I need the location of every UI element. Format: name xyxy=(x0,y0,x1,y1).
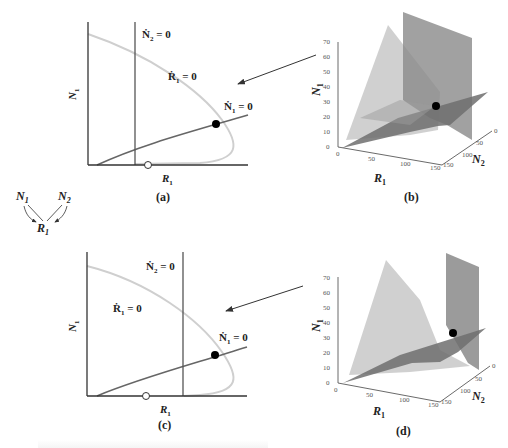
n2-ticks: 0 50 100 150 xyxy=(441,362,496,406)
svg-text:70: 70 xyxy=(323,274,331,282)
svg-text:150: 150 xyxy=(428,401,439,409)
panel-d: 0 10 20 30 40 50 60 70 0 50 100 150 0 50… xyxy=(309,253,496,438)
n1-ticks: 0 10 20 30 40 50 60 70 xyxy=(323,274,331,387)
n1-isocline-label: Ṅ1 = 0 xyxy=(219,331,248,346)
svg-text:0: 0 xyxy=(336,150,340,158)
r1-ticks: 0 50 100 150 xyxy=(334,386,439,409)
svg-text:70: 70 xyxy=(323,38,331,46)
panel-label-c: (c) xyxy=(158,418,171,432)
n1-isocline-line xyxy=(97,347,247,396)
r1-isocline-curve xyxy=(87,266,234,396)
food-web-node-r1: R1 xyxy=(36,221,49,237)
figure-canvas: Ṅ2 = 0 Ṙ1 = 0 Ṅ1 = 0 R1 N1 (a) 0 10 xyxy=(0,0,508,448)
svg-text:150: 150 xyxy=(430,164,441,172)
r1-axis-label: R1 xyxy=(372,404,385,420)
panel-a: Ṅ2 = 0 Ṙ1 = 0 Ṅ1 = 0 R1 N1 (a) xyxy=(66,22,253,204)
svg-text:30: 30 xyxy=(323,98,331,106)
panel-c: Ṅ2 = 0 Ṙ1 = 0 Ṅ1 = 0 R1 N1 (c) xyxy=(66,252,248,432)
x-axis-label: R1 xyxy=(161,172,173,187)
svg-text:0: 0 xyxy=(494,127,498,135)
svg-text:0: 0 xyxy=(326,143,330,151)
svg-text:10: 10 xyxy=(323,364,331,372)
n1-axis-label: N1 xyxy=(309,319,325,333)
panel-label-d: (d) xyxy=(396,424,411,438)
n2-axis-label: N2 xyxy=(471,152,485,168)
svg-text:0: 0 xyxy=(326,379,330,387)
equilibrium-point-3d xyxy=(432,102,440,110)
svg-text:0: 0 xyxy=(492,362,496,370)
y-axis-label: N1 xyxy=(66,320,81,333)
unstable-point xyxy=(145,162,152,169)
svg-text:0: 0 xyxy=(334,386,338,394)
svg-text:50: 50 xyxy=(323,304,331,312)
r1-ticks: 0 50 100 150 xyxy=(336,150,441,172)
equilibrium-point-3d xyxy=(449,329,457,337)
r1-isocline-curve xyxy=(88,34,234,164)
x-axis-label: R1 xyxy=(159,403,171,418)
unstable-point xyxy=(143,393,150,400)
n2-isocline-label: Ṅ2 = 0 xyxy=(146,260,175,275)
r1-isocline-label: Ṙ1 = 0 xyxy=(113,302,142,317)
r1-axis xyxy=(338,383,440,402)
food-web-node-n2: N2 xyxy=(57,189,71,205)
svg-text:10: 10 xyxy=(323,128,331,136)
food-web-node-n1: N1 xyxy=(15,189,29,205)
svg-text:50: 50 xyxy=(475,375,483,383)
svg-text:60: 60 xyxy=(323,53,331,61)
n1-isocline-label: Ṅ1 = 0 xyxy=(224,100,253,115)
r1-axis xyxy=(338,147,442,165)
edge-n1-r1-line xyxy=(28,205,43,221)
edge-n1-r1-arrow xyxy=(24,206,36,222)
svg-text:20: 20 xyxy=(323,349,331,357)
panel-b: 0 10 20 30 40 50 60 70 0 50 100 150 0 50… xyxy=(309,12,498,204)
food-web-diagram: N1 N2 R1 xyxy=(15,189,71,237)
n2-isocline-label: Ṅ2 = 0 xyxy=(142,28,171,43)
n2-axis-label: N2 xyxy=(471,389,485,405)
svg-text:30: 30 xyxy=(323,334,331,342)
svg-text:150: 150 xyxy=(443,161,454,169)
arrow-b-to-a xyxy=(238,55,316,84)
n1-axis-label: N1 xyxy=(309,83,325,97)
r1-axis-label: R1 xyxy=(373,171,386,187)
panel-label-a: (a) xyxy=(156,190,170,204)
arrow-d-to-c xyxy=(226,286,303,311)
edge-n2-r1-arrow xyxy=(55,206,67,222)
n1-ticks: 0 10 20 30 40 50 60 70 xyxy=(323,38,331,151)
equilibrium-point xyxy=(212,120,220,128)
svg-text:100: 100 xyxy=(460,387,471,395)
svg-text:50: 50 xyxy=(323,68,331,76)
panel-label-b: (b) xyxy=(404,190,419,204)
equilibrium-point xyxy=(211,351,219,359)
svg-text:60: 60 xyxy=(323,289,331,297)
svg-text:50: 50 xyxy=(366,391,374,399)
y-axis-label: N1 xyxy=(66,88,81,101)
svg-text:50: 50 xyxy=(476,139,484,147)
cropped-caption-fragment xyxy=(38,440,268,448)
svg-text:100: 100 xyxy=(400,160,411,168)
svg-text:50: 50 xyxy=(368,155,376,163)
svg-text:20: 20 xyxy=(323,113,331,121)
svg-text:150: 150 xyxy=(441,398,452,406)
svg-text:100: 100 xyxy=(399,396,410,404)
